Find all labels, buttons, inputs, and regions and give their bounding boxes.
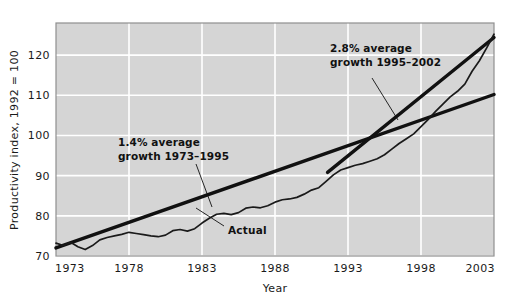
annotation-actual: Actual [228,224,267,236]
x-tick-label: 1993 [333,262,363,275]
actual-callout-label: Actual [228,224,267,236]
annotation-1-line-1: 1.4% average [118,136,200,148]
productivity-chart: 708090100110120 197319781983198819931998… [0,0,524,301]
y-tick-label: 110 [28,89,50,102]
y-tick-label: 100 [28,129,50,142]
y-tick-label: 70 [35,250,50,263]
chart-svg: 708090100110120 197319781983198819931998… [0,0,524,301]
y-tick-label: 80 [35,210,50,223]
y-tick-label: 120 [28,49,50,62]
x-axis-title: Year [262,282,288,295]
x-tick-label: 1983 [187,262,217,275]
x-tick-label: 1998 [406,262,436,275]
annotation-2-line-2: growth 1995–2002 [330,56,441,68]
annotation-1-line-2: growth 1973–1995 [118,150,229,162]
x-tick-label: 1978 [114,262,144,275]
annotation-2-line-1: 2.8% average [330,42,412,54]
y-axis-title: Productivity index, 1992 = 100 [8,50,21,230]
x-axis-tick-labels: 1973197819831988199319982003 [55,262,495,275]
x-tick-label: 1988 [260,262,290,275]
y-tick-label: 90 [35,170,50,183]
x-tick-label: 2003 [465,262,495,275]
x-tick-label: 1973 [55,262,85,275]
